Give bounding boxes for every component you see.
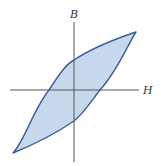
h-axis-label: H <box>142 84 153 97</box>
hysteresis-diagram: B H <box>0 0 161 166</box>
b-axis-label: B <box>69 8 78 21</box>
